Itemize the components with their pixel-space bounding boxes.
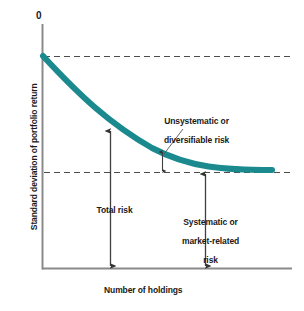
annotation-systematic-risk-line2: market-related bbox=[182, 236, 239, 246]
x-axis-label: Number of holdings bbox=[104, 286, 182, 296]
annotation-systematic-risk-line1: Systematic or bbox=[183, 217, 237, 227]
annotation-unsystematic-risk-line1: Unsystematic or bbox=[164, 116, 229, 126]
annotation-systematic-risk-line3: risk bbox=[203, 255, 218, 265]
origin-label: 0 bbox=[36, 10, 41, 21]
y-axis-label: Standard deviation of portfolio return bbox=[30, 62, 40, 252]
annotation-systematic-risk: Systematic or market-related risk bbox=[161, 208, 251, 275]
annotation-unsystematic-risk-line2: diversifiable risk bbox=[164, 135, 229, 145]
chart-canvas bbox=[0, 0, 304, 311]
annotation-total-risk-line1: Total risk bbox=[96, 205, 132, 215]
annotation-total-risk: Total risk bbox=[77, 196, 143, 225]
annotation-unsystematic-risk: Unsystematic or diversifiable risk bbox=[140, 107, 244, 155]
risk-diversification-chart: 0 Standard deviation of portfolio return… bbox=[0, 0, 304, 311]
